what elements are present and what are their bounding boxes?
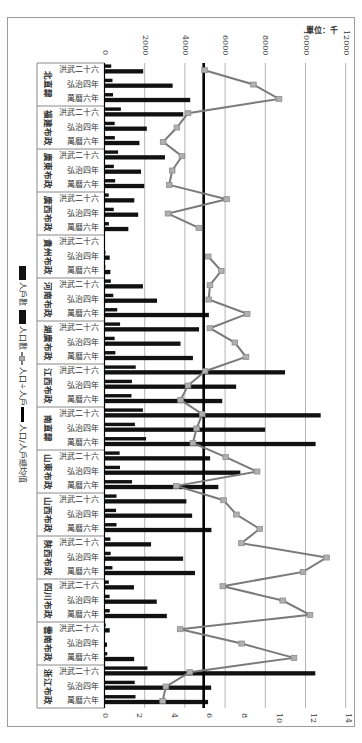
period-label: 萬曆六年 [67,223,99,233]
top-axis-tick-label: 2000 [141,35,149,55]
province-label: 雲南布政 [43,626,52,662]
ratio-marker [307,612,313,617]
square-marker-icon [19,356,25,361]
households-bar [105,150,119,153]
ratio-marker [160,698,166,703]
period-label: 萬曆六年 [67,696,99,706]
period-label: 萬曆六年 [67,180,99,190]
period-label: 洪武二十六 [59,108,99,118]
period-label: 洪武二十六 [59,280,99,290]
households-bar [105,681,135,684]
province-label-box: 湖廣布政 [38,321,56,364]
ratio-marker [218,268,224,273]
ratio-line [163,257,327,701]
period-label: 弘治四年 [67,338,99,348]
period-label: 洪武二十六 [59,194,99,204]
period-label: 弘治四年 [67,467,99,477]
population-bar [105,456,211,460]
households-bar [105,394,132,397]
households-bar [105,609,110,612]
period-label: 洪武二十六 [59,237,99,247]
households-bar [105,537,111,540]
households-bar [105,179,116,182]
households-bar [105,494,117,497]
ratio-marker [190,440,196,445]
period-label: 洪武二十六 [59,151,99,161]
period-label: 萬曆六年 [67,94,99,104]
ratio-marker [185,383,191,388]
period-label: 弘治四年 [67,166,99,176]
province-label: 南直隸 [43,415,52,442]
period-label: 洪武二十六 [59,409,99,419]
period-label: 洪武二十六 [59,667,99,677]
ratio-marker [221,498,227,503]
households-bar [105,136,115,139]
population-bar [105,686,212,690]
population-bar [105,385,237,389]
period-label: 萬曆六年 [67,610,99,620]
ratio-marker [174,125,180,130]
period-label: 弘治四年 [67,553,99,563]
period-label: 萬曆六年 [67,352,99,362]
ratio-marker [324,555,330,560]
province-label-box: 福建布政 [38,106,56,149]
ratio-marker [207,283,213,288]
ratio-marker [169,168,175,173]
households-bar [105,322,121,325]
households-bar [105,165,114,168]
population-swatch [19,310,26,324]
period-label: 萬曆六年 [67,266,99,276]
province-label: 廣東布政 [43,153,52,189]
population-bar [105,600,157,604]
ratio-marker [163,684,169,689]
ratio-marker [244,311,250,316]
population-bar [105,299,158,303]
period-label: 萬曆六年 [67,395,99,405]
households-bar [105,107,121,110]
period-label: 洪武二十六 [59,366,99,376]
bottom-axis-tick-label: 2 [135,713,143,718]
population-bar [105,614,167,618]
legend-label: 人口÷人戶 [18,367,27,406]
population-bar [105,84,173,88]
population-bar [105,313,209,317]
population-bar [105,528,212,532]
ratio-marker [280,598,286,603]
period-label: 弘治四年 [67,381,99,391]
population-bar [105,585,134,589]
legend-label: 人口數 [18,326,27,350]
population-bar [105,657,135,661]
bottom-axis-tick-label: 10 [275,713,283,723]
province-label-box: 河南布政 [38,278,56,321]
period-label: 洪武二十六 [59,323,99,333]
households-bar [105,451,120,454]
legend-item-population: 人口數 [15,310,29,350]
period-label: 洪武二十六 [59,538,99,548]
province-label-box: 南直隸 [38,407,56,450]
province-label-box: 山西布政 [38,493,56,536]
population-bar [105,671,316,675]
households-bar [105,466,120,469]
bottom-axis-tick-label: 0 [101,713,109,718]
period-label: 弘治四年 [67,682,99,692]
province-label: 河南布政 [43,282,52,318]
period-label: 洪武二十六 [59,65,99,75]
households-bar [105,222,109,225]
ratio-marker [224,197,230,202]
top-axis-tick-label: 6000 [221,35,229,55]
period-label: 洪武二十六 [59,452,99,462]
households-swatch [19,266,26,280]
province-label-box: 浙江布政 [38,665,56,708]
ratio-marker [257,526,263,531]
households-bar [105,666,148,669]
period-label: 弘治四年 [67,424,99,434]
province-label: 廣西布政 [43,196,52,232]
ratio-marker [243,354,249,359]
households-bar [105,695,136,698]
population-bar [105,514,193,518]
households-bar [105,193,109,196]
population-bar [105,256,110,260]
population-bar [105,571,195,575]
households-bar [105,552,111,555]
households-bar [105,437,147,440]
